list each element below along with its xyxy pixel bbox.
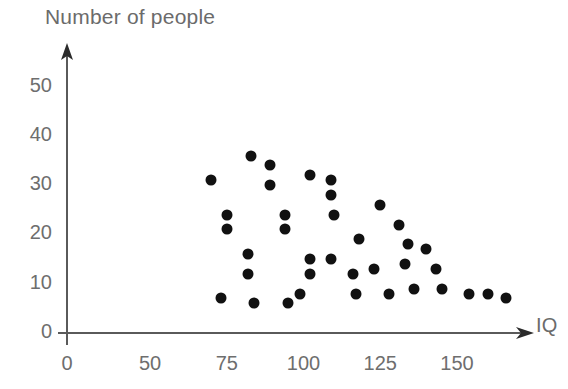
data-point (353, 234, 364, 245)
data-point (482, 288, 493, 299)
x-tick-label: 125 (350, 352, 410, 375)
data-point (402, 239, 413, 250)
y-tick-label: 30 (12, 172, 52, 195)
data-point (329, 209, 340, 220)
data-point (243, 249, 254, 260)
y-tick-label: 20 (12, 221, 52, 244)
data-point (326, 254, 337, 265)
data-point (206, 175, 217, 186)
y-axis-title: Number of people (45, 5, 215, 29)
data-point (393, 219, 404, 230)
data-point (221, 224, 232, 235)
scatter-plot: Number of people IQ 01020304050 05075100… (0, 0, 568, 389)
x-tick-label: 150 (427, 352, 487, 375)
y-tick-label: 10 (12, 271, 52, 294)
y-tick-label: 0 (12, 320, 52, 343)
x-tick-label: 75 (197, 352, 257, 375)
axes-group (0, 0, 568, 389)
data-point (375, 199, 386, 210)
data-point (384, 288, 395, 299)
data-point (501, 293, 512, 304)
data-point (409, 283, 420, 294)
y-tick-label: 40 (12, 123, 52, 146)
data-point (347, 268, 358, 279)
x-tick-label: 100 (274, 352, 334, 375)
x-tick-label: 0 (37, 352, 97, 375)
data-point (304, 170, 315, 181)
data-point (350, 288, 361, 299)
data-point (215, 293, 226, 304)
data-point (249, 298, 260, 309)
data-point (246, 150, 257, 161)
x-tick-label: 50 (120, 352, 180, 375)
data-point (464, 288, 475, 299)
data-point (304, 268, 315, 279)
data-point (304, 254, 315, 265)
data-point (421, 244, 432, 255)
data-point (221, 209, 232, 220)
data-point (369, 263, 380, 274)
data-point (243, 268, 254, 279)
data-point (295, 288, 306, 299)
data-point (280, 209, 291, 220)
data-point (326, 189, 337, 200)
data-point (264, 180, 275, 191)
data-point (280, 224, 291, 235)
data-point (430, 263, 441, 274)
data-point (436, 283, 447, 294)
data-point (326, 175, 337, 186)
y-tick-label: 50 (12, 74, 52, 97)
data-point (399, 258, 410, 269)
data-point (264, 160, 275, 171)
data-point (283, 298, 294, 309)
x-axis-title: IQ (536, 314, 558, 337)
